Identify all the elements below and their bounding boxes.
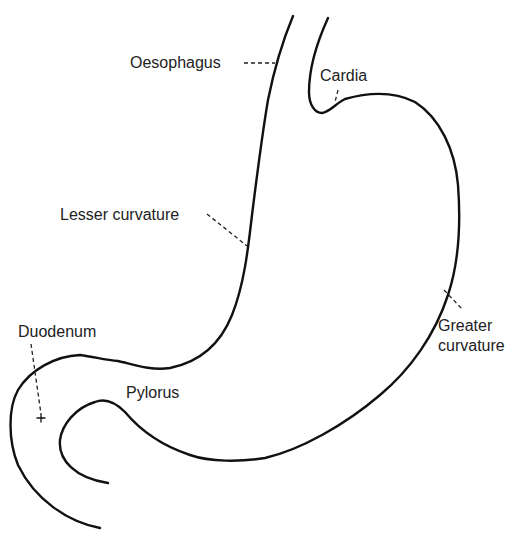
stomach-diagram: Oesophagus Cardia Lesser curvature Great… [0,0,532,549]
label-greater-curvature-line2: curvature [438,336,505,355]
label-cardia: Cardia [320,66,367,85]
stomach-outline-svg [0,0,532,549]
label-pylorus: Pylorus [126,383,179,402]
label-lesser-curvature: Lesser curvature [60,205,179,224]
duodenum-cross-mark [37,414,45,422]
duodenum-leader [31,344,41,414]
cardia-leader [335,90,338,102]
label-duodenum: Duodenum [18,322,96,341]
lesser-curvature-outline [11,16,294,528]
label-greater-curvature-line1: Greater [438,316,492,335]
label-oesophagus: Oesophagus [130,53,221,72]
lesser-curvature-leader [207,214,247,246]
greater-curvature-outline [60,18,459,483]
